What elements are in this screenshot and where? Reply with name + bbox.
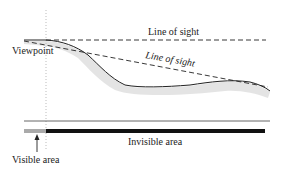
viewpoint-label: Viewpoint [12,45,54,56]
line-of-sight-horizontal-label: Line of sight [148,26,199,37]
invisible-area-bar [46,129,265,133]
line-of-sight-sloped-label: Line of sight [144,49,196,69]
invisible-area-label: Invisible area [128,136,183,147]
visible-area-label: Visible area [12,154,60,165]
visible-area-bar [24,129,46,133]
viewshed-diagram: Viewpoint Line of sight Line of sight In… [0,0,290,170]
arrow-head-icon [35,134,40,140]
line-of-sight-sloped [24,41,268,87]
